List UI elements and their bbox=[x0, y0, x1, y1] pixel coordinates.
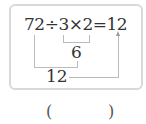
expression: 72÷3×2=12 bbox=[24, 14, 127, 34]
answer-close-paren: ) bbox=[108, 102, 114, 121]
bracket-3x2-left bbox=[63, 35, 64, 42]
bracket-72-left bbox=[34, 35, 35, 67]
answer-blank[interactable] bbox=[56, 104, 106, 120]
bracket-3x2-right bbox=[89, 35, 90, 42]
intermediate-6: 6 bbox=[71, 42, 82, 62]
intermediate-12: 12 bbox=[46, 66, 68, 86]
arrow-head-icon bbox=[116, 31, 120, 36]
answer-open-paren: ( bbox=[46, 102, 52, 121]
arrow-horizontal bbox=[69, 77, 119, 78]
arrow-vertical bbox=[118, 35, 119, 78]
